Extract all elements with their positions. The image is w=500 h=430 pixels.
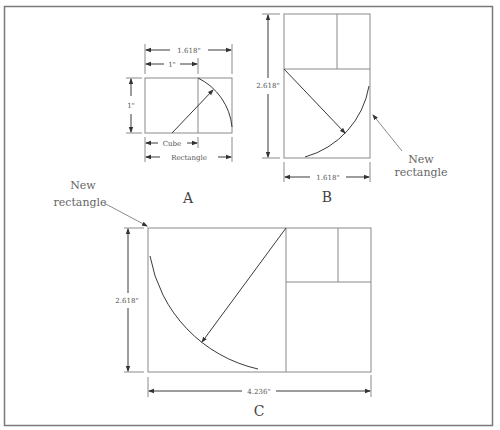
golden-rectangle <box>145 78 232 133</box>
golden-rectangle-figure: 1.618" 1" 1" Cube Rectangle A <box>0 0 500 430</box>
width-label: 1.618" <box>316 174 339 182</box>
rectangle-label: Rectangle <box>171 154 207 162</box>
pointer-arrow <box>104 203 147 226</box>
panel-label-a: A <box>182 190 194 206</box>
panel-a: 1.618" 1" 1" Cube Rectangle A <box>126 44 232 206</box>
new-rectangle <box>284 14 370 158</box>
pointer-arrow <box>373 115 402 151</box>
figure-frame <box>5 7 493 426</box>
note-line-1: New <box>70 179 96 192</box>
cube-width-label: 1" <box>168 61 176 69</box>
radius-arrow <box>172 90 213 133</box>
width-label: 4.236" <box>247 388 270 396</box>
note-line-2: rectangle <box>394 166 447 179</box>
height-label: 2.618" <box>256 82 279 90</box>
radius-arrow <box>284 69 345 133</box>
panel-label-b: B <box>322 189 332 205</box>
arc <box>150 256 258 369</box>
arc <box>198 78 232 127</box>
panel-b: 2.618" 1.618" New rectangle B <box>256 14 447 205</box>
radius-arrow <box>202 228 286 342</box>
height-label: 2.618" <box>115 297 138 305</box>
note-line-2: rectangle <box>53 196 106 209</box>
panel-c: 2.618" 4.236" New rectangle C <box>53 179 371 419</box>
panel-label-c: C <box>254 403 265 419</box>
cube-label: Cube <box>163 140 182 148</box>
note-line-1: New <box>408 153 434 166</box>
height-label: 1" <box>127 102 135 110</box>
width-label: 1.618" <box>177 47 200 55</box>
arc <box>305 86 369 157</box>
